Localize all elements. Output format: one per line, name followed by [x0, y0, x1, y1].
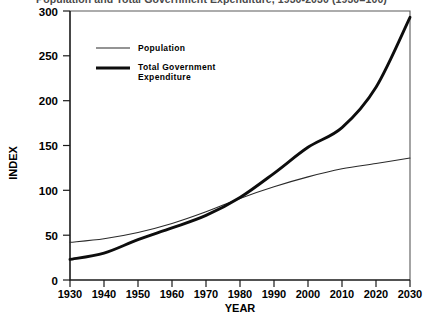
y-tick-label: 250 [39, 50, 58, 62]
x-axis-labels: 1930 1940 1950 1960 1970 1980 1990 2000 … [58, 288, 422, 300]
x-tick-label: 1930 [58, 288, 82, 300]
y-axis-labels: 300 250 200 150 100 50 0 [39, 6, 58, 287]
series-line-total-government-expenditure [70, 17, 410, 259]
y-tick-label: 300 [39, 6, 58, 18]
y-axis-ticks [63, 11, 70, 280]
x-tick-label: 1970 [194, 288, 218, 300]
x-tick-label: 2030 [398, 288, 422, 300]
x-tick-label: 1940 [92, 288, 116, 300]
legend-label-population: Population [138, 43, 185, 53]
chart-legend: Population Total Government Expenditure [96, 43, 216, 82]
legend-label-total-government-expenditure: Total Government [138, 62, 216, 72]
y-tick-label: 50 [45, 230, 58, 242]
x-tick-label: 1950 [126, 288, 150, 300]
x-tick-label: 2020 [364, 288, 388, 300]
y-tick-label: 100 [39, 185, 58, 197]
x-tick-label: 1960 [160, 288, 184, 300]
series-line-population [70, 158, 410, 242]
x-axis-ticks [70, 280, 410, 287]
y-tick-label: 150 [39, 140, 58, 152]
y-tick-label: 200 [39, 95, 58, 107]
y-axis-title: INDEX [7, 146, 19, 180]
plot-axes [70, 11, 410, 280]
chart-plot-area: 300 250 200 150 100 50 0 INDEX 1930 [0, 0, 423, 315]
y-tick-label: 0 [52, 275, 58, 287]
x-tick-label: 1980 [228, 288, 252, 300]
x-tick-label: 2010 [330, 288, 354, 300]
chart-container: Population and Total Government Expendit… [0, 0, 423, 315]
plot-frame [70, 11, 410, 280]
x-tick-label: 1990 [262, 288, 286, 300]
legend-label-total-government-expenditure-line2: Expenditure [138, 72, 191, 82]
x-tick-label: 2000 [296, 288, 320, 300]
x-axis-title: YEAR [225, 302, 256, 314]
